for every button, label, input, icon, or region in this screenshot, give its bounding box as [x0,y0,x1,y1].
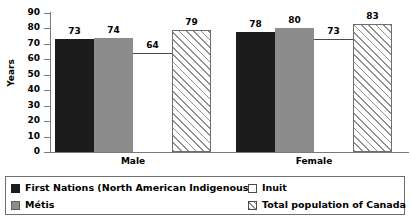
legend-item-label: Métis [25,200,54,210]
legend-swatch-hatch-icon [248,201,257,210]
y-axis-tick-label: 50 [14,70,40,79]
bar [236,32,275,152]
bar-value-label: 73 [55,27,94,36]
y-axis-tick [44,90,50,91]
y-axis-tick-label: 0 [14,147,40,156]
y-axis-tick [44,44,50,45]
bar [353,24,392,152]
y-axis-tick [44,75,50,76]
bar-value-label: 83 [353,12,392,21]
bar [314,39,353,152]
y-axis-tick [44,137,50,138]
x-axis-line [50,152,409,153]
legend-item-label: Inuit [262,183,287,193]
y-axis-tick [44,121,50,122]
y-axis-tick-label: 10 [14,132,40,141]
legend-item: Inuit [248,180,406,196]
legend-item: First Nations (North American Indigenous… [11,180,253,196]
y-axis-tick [44,106,50,107]
legend-swatch-white-icon [248,184,257,193]
plot-area: 7374647978807383 [51,13,409,152]
bar [172,30,211,152]
legend-item-label: First Nations (North American Indigenous… [25,183,253,193]
x-axis-category-label: Male [55,156,211,166]
y-axis-tick-label: 40 [14,85,40,94]
y-axis-tick [44,28,50,29]
y-axis-tick-label: 60 [14,54,40,63]
bar-value-label: 78 [236,20,275,29]
bar-value-label: 73 [314,27,353,36]
y-axis-tick [44,13,50,14]
bar [275,28,314,152]
y-axis-tick-label: 70 [14,39,40,48]
legend: First Nations (North American Indigenous… [5,176,405,215]
y-axis-tick-label: 90 [14,8,40,17]
y-axis-tick-label: 30 [14,101,40,110]
legend-column-left: First Nations (North American Indigenous… [11,180,253,214]
legend-item: Total population of Canada [248,197,406,213]
y-axis-tick-label: 20 [14,116,40,125]
bar [94,38,133,152]
bar-value-label: 74 [94,26,133,35]
legend-column-right: InuitTotal population of Canada [248,180,406,214]
bar-chart: Years 9080706050403020100 73746479788073… [0,0,412,221]
legend-item: Métis [11,197,253,213]
y-axis-tick-label: 80 [14,23,40,32]
bar [133,53,172,152]
y-axis-tick [44,59,50,60]
y-axis-tick [44,152,50,153]
bar-value-label: 64 [133,41,172,50]
legend-swatch-black-icon [11,184,20,193]
bar-value-label: 79 [172,18,211,27]
bar [55,39,94,152]
x-axis-category-label: Female [236,156,392,166]
legend-swatch-gray-icon [11,201,20,210]
legend-item-label: Total population of Canada [262,200,406,210]
bar-value-label: 80 [275,16,314,25]
